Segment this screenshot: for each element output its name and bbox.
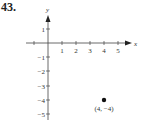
point-label: (4, −4) <box>94 105 114 113</box>
y-tick-label: 1 <box>42 26 46 34</box>
y-tick-label: −5 <box>38 111 46 119</box>
x-axis-arrow-icon <box>125 41 132 46</box>
y-tick-label: −1 <box>38 54 46 62</box>
x-tick-label: 5 <box>116 47 120 55</box>
x-tick-label: 1 <box>60 47 64 55</box>
x-tick-label: 3 <box>88 47 92 55</box>
data-point <box>102 98 106 102</box>
y-axis-arrow-icon <box>46 15 51 22</box>
y-tick-label: −3 <box>38 83 46 91</box>
x-axis-label: x <box>133 40 138 48</box>
coordinate-plane: x y 1 2 3 4 5 1 −1 −2 −3 −4 −5 (4, −4) <box>0 0 141 126</box>
x-tick-label: 4 <box>102 47 106 55</box>
y-tick-label: −2 <box>38 68 46 76</box>
x-tick-label: 2 <box>74 47 78 55</box>
y-axis-label: y <box>45 6 50 14</box>
y-tick-label: −4 <box>38 97 46 105</box>
